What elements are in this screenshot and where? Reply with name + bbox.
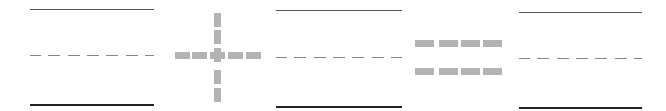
equals-dash: [461, 40, 480, 47]
plus-dash: [246, 52, 261, 59]
line-group-2: [276, 0, 402, 111]
solid-top-line: [30, 9, 154, 10]
equals-dash: [439, 68, 458, 75]
plus-dash: [214, 13, 221, 27]
plus-dash: [214, 30, 221, 44]
equals-dash: [415, 68, 434, 75]
plus-dash: [175, 52, 190, 59]
equals-dash: [415, 40, 434, 47]
plus-dash: [214, 70, 221, 84]
thick-bottom-line: [519, 107, 642, 109]
dashed-middle-line: [519, 58, 642, 59]
solid-top-line: [276, 10, 402, 11]
thick-bottom-line: [276, 106, 402, 108]
line-group-3: [519, 0, 642, 111]
plus-dash: [214, 88, 221, 102]
plus-dash: [228, 52, 243, 59]
equals-dash: [461, 68, 480, 75]
dashed-middle-line: [276, 57, 402, 58]
plus-dash: [214, 48, 221, 62]
thick-bottom-line: [30, 104, 154, 106]
equals-dash: [439, 40, 458, 47]
equals-dash: [483, 40, 502, 47]
dashed-middle-line: [30, 55, 154, 56]
solid-top-line: [519, 12, 642, 13]
line-group-1: [30, 0, 154, 111]
plus-dash: [192, 52, 207, 59]
equals-dash: [483, 68, 502, 75]
